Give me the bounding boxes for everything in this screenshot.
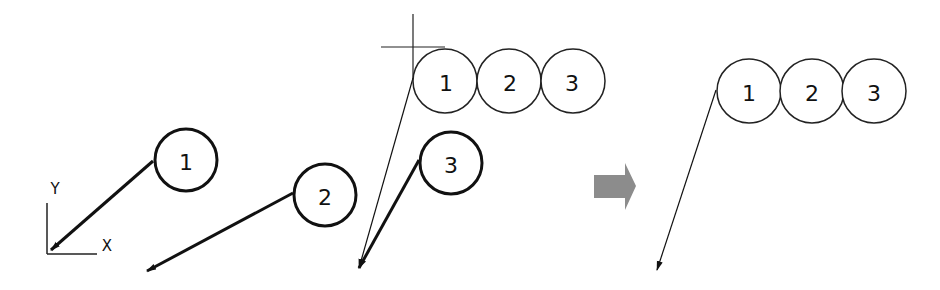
x-axis-label: X: [102, 237, 112, 255]
balloon-number: 3: [565, 71, 579, 96]
balloon-number: 2: [318, 185, 332, 210]
balloon-number: 2: [503, 71, 517, 96]
balloon-number: 1: [742, 81, 756, 106]
balloon-number: 3: [444, 153, 458, 178]
balloon-stack-after[interactable]: 1 2 3: [657, 59, 906, 270]
transition-arrow-icon: [594, 163, 636, 210]
balloon-number: 1: [179, 150, 193, 175]
balloon-1-before[interactable]: 1: [51, 129, 217, 250]
balloon-number: 2: [805, 81, 819, 106]
balloon-number: 1: [439, 71, 453, 96]
y-axis-label: Y: [49, 180, 60, 198]
balloon-stack-diagram: Y X 1 2 3 1 2 3 1 2: [0, 0, 940, 290]
balloon-number: 3: [867, 81, 881, 106]
balloon-3-before[interactable]: 3: [359, 132, 482, 268]
